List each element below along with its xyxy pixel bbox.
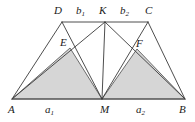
segment-label-b2-sub: 2	[126, 10, 130, 18]
segment-label-a2: a2	[136, 104, 145, 115]
segment-label-a1-sub: 1	[51, 109, 55, 117]
segment-label-b1-base: b	[76, 4, 82, 16]
vertex-label-F: F	[136, 38, 143, 49]
segment-label-a1-base: a	[45, 103, 51, 115]
vertex-label-D: D	[54, 5, 62, 16]
segment-label-a2-sub: 2	[142, 109, 146, 117]
vertex-label-K: K	[99, 5, 106, 16]
figure-canvas	[0, 0, 195, 122]
segment-label-a1: a1	[45, 104, 54, 115]
vertex-label-C: C	[145, 5, 152, 16]
segment-K-M	[102, 22, 105, 99]
segment-label-b1-sub: 1	[82, 10, 86, 18]
vertex-label-M: M	[100, 104, 109, 115]
geometry-figure: D K C E F A M B b1 b2 a1 a2	[0, 0, 195, 122]
segment-label-b2-base: b	[120, 4, 126, 16]
vertex-label-A: A	[8, 104, 15, 115]
segment-label-b2: b2	[120, 5, 129, 16]
segment-label-b1: b1	[76, 5, 85, 16]
vertex-label-B: B	[179, 104, 186, 115]
vertex-label-E: E	[60, 37, 67, 48]
segment-label-a2-base: a	[136, 103, 142, 115]
